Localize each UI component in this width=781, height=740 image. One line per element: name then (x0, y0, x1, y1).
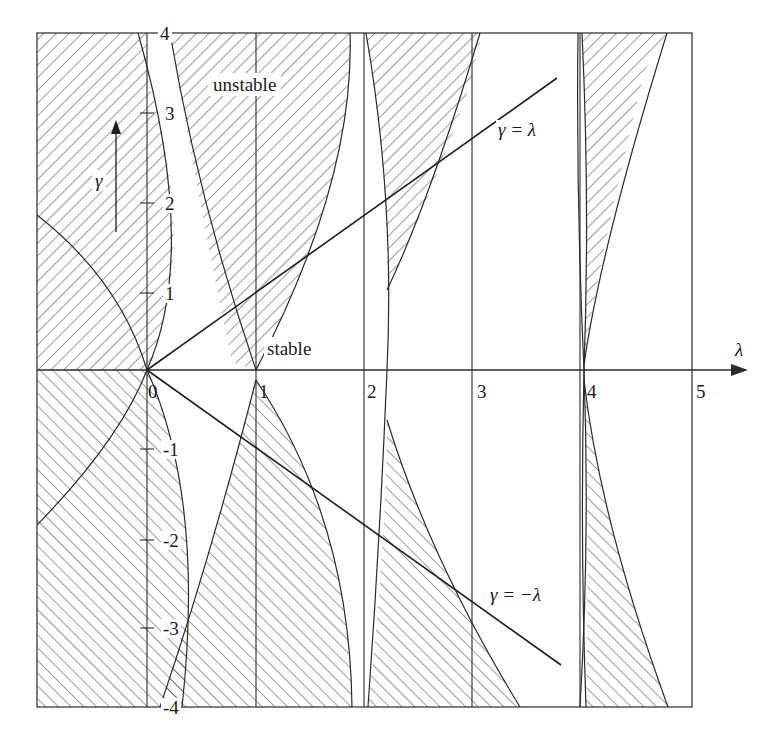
x-tick-label-5: 5 (694, 382, 708, 401)
stability-diagram (0, 0, 781, 740)
unstable-region-left (37, 33, 147, 370)
stable-label: stable (264, 337, 314, 360)
y-tick-label-4: 4 (158, 24, 172, 43)
lower-half-regions (37, 370, 668, 707)
line-label-gamma-equals-minus-lambda: γ = −λ (488, 585, 543, 604)
x-tick-label-0: 0 (146, 382, 160, 401)
y-tick-label-3: 3 (163, 104, 177, 123)
x-tick-label-2: 2 (365, 382, 379, 401)
upper-half-regions (37, 33, 667, 370)
unstable-region-4-5-lower (584, 380, 668, 707)
line-label-gamma-equals-lambda: γ = λ (496, 120, 538, 139)
gamma-arrow-label: γ (92, 170, 106, 191)
y-tick-label-minus-1: -1 (161, 440, 181, 459)
unstable-region-2-3-lower (368, 420, 520, 707)
y-tick-label-1: 1 (163, 284, 177, 303)
y-tick-label-minus-4: -4 (161, 698, 181, 717)
unstable-region-left-lower (37, 370, 147, 707)
unstable-region-1-2-lower (256, 380, 352, 707)
y-tick-label-2: 2 (163, 194, 177, 213)
y-tick-label-minus-2: -2 (161, 531, 181, 550)
unstable-region-4-5 (582, 33, 667, 365)
unstable-label: unstable (208, 73, 281, 96)
x-tick-label-3: 3 (475, 382, 489, 401)
x-axis-symbol: λ (733, 340, 745, 359)
y-tick-label-minus-3: -3 (161, 619, 181, 638)
x-axis-arrowhead-icon (731, 364, 748, 376)
x-tick-label-1: 1 (257, 382, 271, 401)
x-tick-label-4: 4 (585, 382, 599, 401)
